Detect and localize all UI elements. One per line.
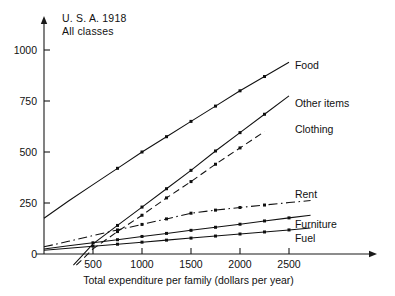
x-axis-tick-label: 2000	[228, 258, 252, 270]
data-point-marker	[263, 204, 266, 207]
series-line-furniture	[44, 215, 311, 249]
series-label-clothing: Clothing	[295, 123, 334, 135]
data-point-marker	[141, 214, 144, 217]
data-point-marker	[239, 131, 242, 134]
y-axis-tick-label: 250	[19, 197, 37, 209]
data-point-marker	[214, 209, 217, 212]
y-axis-tick-label: 0	[31, 248, 37, 260]
data-point-marker	[214, 163, 217, 166]
y-axis-tick-label: 1000	[14, 44, 38, 56]
data-point-marker	[165, 187, 168, 190]
data-point-marker	[141, 151, 144, 154]
data-point-marker	[116, 238, 119, 241]
series-line-fuel	[44, 228, 311, 250]
data-point-marker	[190, 180, 193, 183]
series-group	[44, 62, 311, 265]
data-point-marker	[288, 216, 291, 219]
data-point-marker	[263, 113, 266, 116]
data-point-marker	[214, 149, 217, 152]
data-point-marker	[116, 243, 119, 246]
data-point-marker	[239, 233, 242, 236]
series-line-rent	[44, 201, 311, 247]
data-point-marker	[190, 120, 193, 123]
chart-annotation-line-1: U. S. A. 1918	[62, 12, 126, 24]
y-axis-tick-label: 500	[19, 146, 37, 158]
series-label-rent: Rent	[295, 188, 317, 200]
line-chart-svg: 025050075010005001000150020002500Total e…	[0, 0, 395, 296]
data-point-marker	[239, 223, 242, 226]
data-point-marker	[263, 219, 266, 222]
data-point-marker	[141, 241, 144, 244]
series-label-other-items: Other items	[295, 97, 349, 109]
data-point-marker	[165, 217, 168, 220]
data-point-marker	[239, 146, 242, 149]
data-point-marker	[141, 223, 144, 226]
x-axis-title: Total expenditure per family (dollars pe…	[83, 274, 294, 286]
data-point-marker	[92, 241, 95, 244]
data-point-marker	[263, 230, 266, 233]
data-point-marker	[190, 237, 193, 240]
data-point-marker	[288, 228, 291, 231]
data-point-marker	[190, 169, 193, 172]
x-axis-tick-label: 500	[84, 258, 102, 270]
data-point-marker	[116, 167, 119, 170]
data-point-marker	[239, 206, 242, 209]
data-point-marker	[190, 229, 193, 232]
data-point-marker	[214, 226, 217, 229]
data-point-marker	[263, 75, 266, 78]
series-line-food	[44, 62, 289, 218]
x-axis-tick-label: 1000	[130, 258, 154, 270]
y-axis-arrow-icon	[41, 16, 47, 24]
data-point-marker	[165, 232, 168, 235]
x-axis-tick-label: 1500	[179, 258, 203, 270]
data-point-marker	[165, 135, 168, 138]
data-point-marker	[190, 212, 193, 215]
data-point-marker	[141, 235, 144, 238]
chart-annotation-line-2: All classes	[62, 25, 114, 37]
data-point-marker	[214, 235, 217, 238]
data-point-marker	[92, 245, 95, 248]
y-axis-tick-label: 750	[19, 95, 37, 107]
chart-annotation-group: U. S. A. 1918All classes	[62, 12, 126, 37]
data-point-marker	[239, 89, 242, 92]
series-label-furniture: Furniture	[295, 218, 337, 230]
series-label-fuel: Fuel	[295, 232, 315, 244]
chart-container: 025050075010005001000150020002500Total e…	[0, 0, 395, 296]
x-axis-arrow-icon	[369, 251, 377, 257]
data-point-marker	[214, 105, 217, 108]
x-axis-tick-label: 2500	[277, 258, 301, 270]
data-point-marker	[165, 239, 168, 242]
data-point-marker	[116, 224, 119, 227]
series-label-food: Food	[295, 59, 319, 71]
data-point-marker	[141, 206, 144, 209]
data-point-marker	[116, 228, 119, 231]
data-point-marker	[165, 196, 168, 199]
